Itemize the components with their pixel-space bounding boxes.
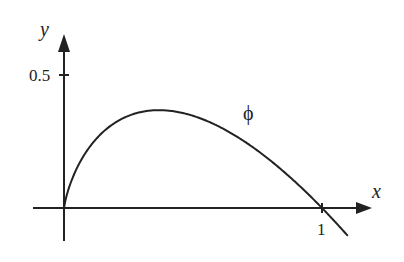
x-axis-arrow-icon [356,202,372,214]
y-axis-label: y [38,18,49,41]
y-tick-label: 0.5 [29,66,50,85]
chart-canvas: y 0.5 x 1 ϕ [0,0,404,262]
curve-label: ϕ [243,102,254,125]
phi-curve [64,110,348,236]
x-axis-label: x [371,180,381,202]
y-axis-arrow-icon [58,34,70,52]
x-tick-label: 1 [317,220,326,239]
